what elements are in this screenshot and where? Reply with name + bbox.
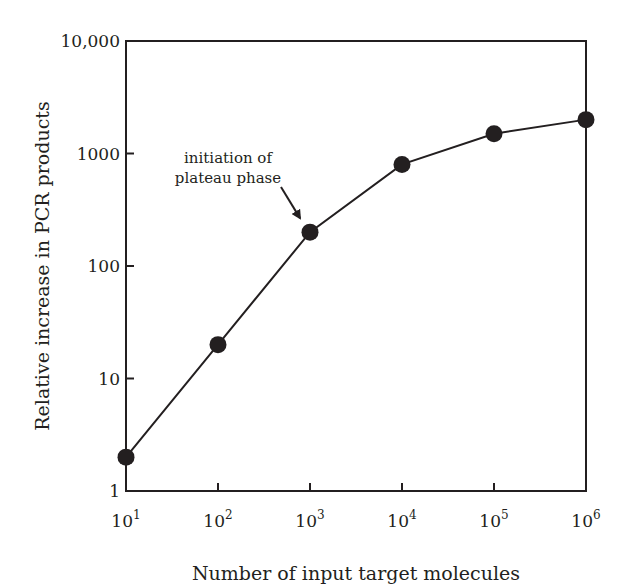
x-tick-label: 103 <box>295 508 324 531</box>
annotation: initiation ofplateau phase <box>175 149 300 218</box>
x-tick-label: 102 <box>203 508 232 531</box>
y-axis-ticks: 110100100010,000 <box>61 31 134 501</box>
x-tick-label: 101 <box>111 508 140 531</box>
x-tick-label: 106 <box>571 508 600 531</box>
data-point-marker <box>118 449 135 466</box>
y-tick-label: 1 <box>109 481 120 501</box>
plot-border <box>126 41 586 491</box>
x-axis-label: Number of input target molecules <box>192 562 520 584</box>
data-point-marker <box>578 111 595 128</box>
y-tick-label: 10,000 <box>61 31 120 51</box>
data-point-marker <box>394 156 411 173</box>
pcr-plateau-chart: 110100100010,000 101102103104105106 init… <box>0 0 630 587</box>
x-tick-label: 104 <box>387 508 417 531</box>
annotation-text-line: plateau phase <box>175 169 282 187</box>
x-tick-label: 105 <box>479 508 508 531</box>
data-point-marker <box>486 125 503 142</box>
plot-frame <box>126 41 586 491</box>
data-point-marker <box>302 224 319 241</box>
annotation-arrow-icon <box>281 187 300 218</box>
y-tick-label: 100 <box>88 256 120 276</box>
data-point-marker <box>210 336 227 353</box>
y-tick-label: 10 <box>98 369 120 389</box>
annotation-text-line: initiation of <box>184 149 273 167</box>
y-axis-label: Relative increase in PCR products <box>31 101 53 430</box>
y-tick-label: 1000 <box>77 144 120 164</box>
